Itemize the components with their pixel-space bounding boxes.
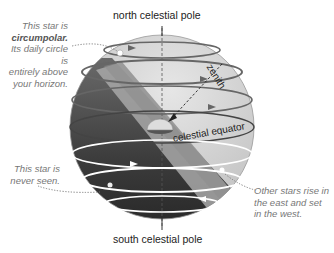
north-celestial-pole-label: north celestial pole	[113, 9, 201, 21]
note-line: in the west.	[254, 208, 334, 220]
note-bold: circumpolar.	[12, 32, 69, 43]
note-line: This star is	[4, 20, 68, 32]
circumpolar-note: This star is circumpolar. Its daily circ…	[4, 20, 68, 89]
never-seen-star	[108, 183, 113, 188]
note-line: your horizon.	[4, 78, 68, 90]
note-line: Its daily circle is	[4, 43, 68, 66]
never-seen-note: This star is never seen.	[4, 163, 60, 186]
rising-star	[220, 168, 225, 173]
circumpolar-star	[117, 50, 123, 56]
note-line: the east and set	[254, 197, 334, 209]
south-celestial-pole-label: south celestial pole	[113, 233, 202, 245]
rise-set-note: Other stars rise in the east and set in …	[254, 185, 334, 220]
note-line: entirely above	[4, 66, 68, 78]
note-line: never seen.	[4, 175, 60, 187]
note-line: This star is	[4, 163, 60, 175]
note-line: Other stars rise in	[254, 185, 334, 197]
